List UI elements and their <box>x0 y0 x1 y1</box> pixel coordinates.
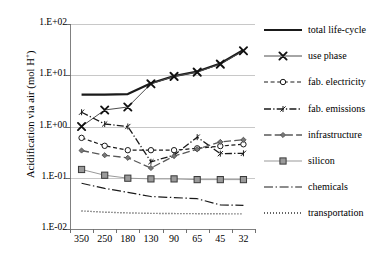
legend-swatch <box>262 74 304 90</box>
legend-item-chemicals[interactable]: chemicals <box>262 179 391 195</box>
data-point-marker <box>240 177 246 183</box>
legend-item-fab-emissions[interactable]: fab. emissions <box>262 101 391 117</box>
series-line <box>82 50 244 94</box>
data-point-marker <box>195 134 200 140</box>
legend-swatch <box>262 127 304 143</box>
legend-label: use phase <box>308 48 347 64</box>
data-point-marker <box>148 176 154 182</box>
legend-label: fab. electricity <box>308 74 366 90</box>
legend-item-use-phase[interactable]: use phase <box>262 48 391 64</box>
data-point-marker <box>280 132 285 137</box>
data-point-marker <box>79 109 84 115</box>
series-line <box>82 183 244 205</box>
data-point-marker <box>148 147 153 152</box>
legend-label: transportation <box>308 205 364 221</box>
series-chemicals <box>82 183 244 205</box>
legend-swatch <box>262 179 304 195</box>
chart-container: Acidification via air (mol H+) 1.E+021.E… <box>0 0 391 262</box>
data-point-marker <box>102 172 108 178</box>
data-point-marker <box>79 135 84 140</box>
data-point-marker <box>102 143 107 148</box>
data-point-marker <box>217 177 223 183</box>
series-use-phase <box>78 47 247 130</box>
data-point-marker <box>171 147 176 152</box>
legend-swatch <box>262 22 304 38</box>
legend-swatch <box>262 205 304 221</box>
legend-label: total life-cycle <box>308 22 366 38</box>
data-point-marker <box>78 166 84 172</box>
data-point-marker <box>79 148 84 153</box>
data-point-marker <box>280 80 285 85</box>
legend-swatch <box>262 153 304 169</box>
data-point-marker <box>125 147 130 152</box>
series-total-life-cycle <box>82 50 244 94</box>
series-silicon <box>78 166 246 182</box>
data-point-marker <box>194 177 200 183</box>
data-point-marker <box>78 123 85 130</box>
legend-item-infrastructure[interactable]: infrastructure <box>262 127 391 143</box>
legend-item-fab-electricity[interactable]: fab. electricity <box>262 74 391 90</box>
legend-swatch <box>262 48 304 64</box>
legend-item-transportation[interactable]: transportation <box>262 205 391 221</box>
data-point-marker <box>241 137 246 142</box>
legend-label: fab. emissions <box>308 101 365 117</box>
data-point-marker <box>102 153 107 158</box>
legend-swatch <box>262 101 304 117</box>
legend-label: infrastructure <box>308 127 362 143</box>
legend-label: chemicals <box>308 179 348 195</box>
legend-item-total-life-cycle[interactable]: total life-cycle <box>262 22 391 38</box>
data-point-marker <box>125 175 131 181</box>
series-infrastructure <box>79 137 246 170</box>
legend-label: silicon <box>308 153 335 169</box>
data-point-marker <box>280 158 286 164</box>
series-transportation <box>82 211 244 214</box>
data-point-marker <box>148 165 153 170</box>
data-point-marker <box>171 176 177 182</box>
legend-item-silicon[interactable]: silicon <box>262 153 391 169</box>
data-point-marker <box>125 155 130 160</box>
series-line <box>82 211 244 214</box>
